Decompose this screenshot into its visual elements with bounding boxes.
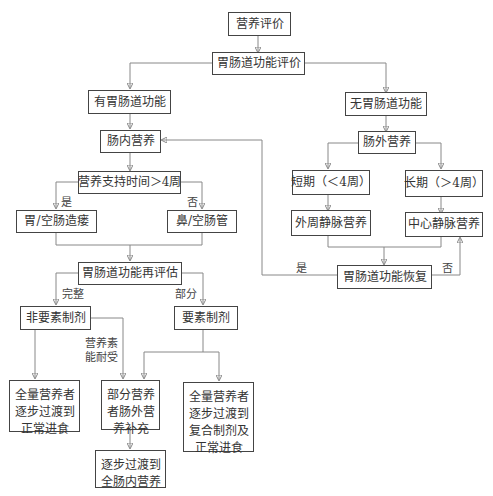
edge-label-complete: 完整 bbox=[62, 288, 84, 302]
node-nasal-tube: 鼻/空肠管 bbox=[167, 210, 237, 233]
node-non-elemental: 非要素制剂 bbox=[20, 306, 91, 330]
node-full-to-normal-diet: 全量营养者逐步过渡到正常进食 bbox=[9, 380, 80, 432]
edge-label-partial: 部分 bbox=[175, 288, 197, 302]
node-full-to-compound-and-normal: 全量营养者逐步过渡到复合制剂及正常进食 bbox=[183, 382, 254, 452]
node-has-gi-function: 有胃肠道功能 bbox=[88, 90, 171, 114]
node-parenteral-nutrition: 肠外营养 bbox=[358, 131, 416, 154]
edge-label-yes: 是 bbox=[61, 196, 72, 210]
edge-label-nutrient-tolerance: 营养素能耐受 bbox=[85, 337, 121, 365]
node-gi-function-assessment: 胃肠道功能评价 bbox=[212, 52, 305, 75]
node-gastrostomy: 胃/空肠造瘘 bbox=[16, 210, 97, 233]
node-peripheral-iv: 外周静脉营养 bbox=[291, 210, 371, 236]
node-support-duration: 营养支持时间＞4周 bbox=[78, 171, 181, 194]
node-partial-parenteral-supplement: 部分营养者肠外营养补充 bbox=[101, 380, 160, 430]
node-no-gi-function: 无胃肠道功能 bbox=[345, 92, 427, 116]
node-nutrition-assessment: 营养评价 bbox=[228, 12, 291, 36]
node-long-term: 长期（＞4周） bbox=[405, 170, 483, 197]
node-transition-full-enteral: 逐步过渡到全肠内营养 bbox=[95, 450, 166, 488]
node-elemental: 要素制剂 bbox=[174, 306, 238, 330]
node-short-term: 短期（＜4周） bbox=[292, 170, 370, 195]
edge-label-recovery-yes: 是 bbox=[296, 262, 307, 276]
node-enteral-nutrition: 肠内营养 bbox=[100, 130, 161, 153]
node-gi-recovery: 胃肠道功能恢复 bbox=[337, 265, 432, 289]
node-gi-reassessment: 胃肠道功能再评估 bbox=[78, 262, 182, 285]
edge-label-recovery-no: 否 bbox=[442, 262, 453, 276]
edge-label-no: 否 bbox=[187, 196, 198, 210]
node-central-iv: 中心静脉营养 bbox=[405, 212, 483, 237]
